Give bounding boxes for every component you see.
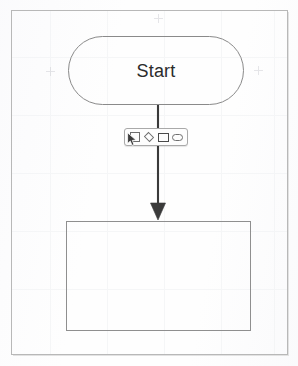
tool-decision-button[interactable]: Decision	[142, 131, 155, 144]
diamond-icon	[144, 132, 154, 142]
flowchart-node-process[interactable]	[66, 221, 251, 331]
tool-process-button[interactable]: Process	[157, 131, 170, 144]
flowchart-node-start[interactable]: Start	[68, 36, 244, 105]
shape-layer: Start	[0, 0, 298, 366]
flowchart-node-start-label: Start	[136, 62, 175, 80]
shape-picker-toolbar[interactable]: Select Decision Process Terminator	[124, 128, 188, 146]
tool-terminator-button[interactable]: Terminator	[171, 131, 184, 144]
tool-select-button[interactable]: Select	[128, 131, 141, 144]
rounded-rect-icon	[172, 134, 183, 141]
editor-canvas[interactable]: Start Select Decision Process Terminator	[0, 0, 298, 366]
rectangle-icon	[158, 133, 169, 142]
square-select-icon	[130, 132, 140, 142]
